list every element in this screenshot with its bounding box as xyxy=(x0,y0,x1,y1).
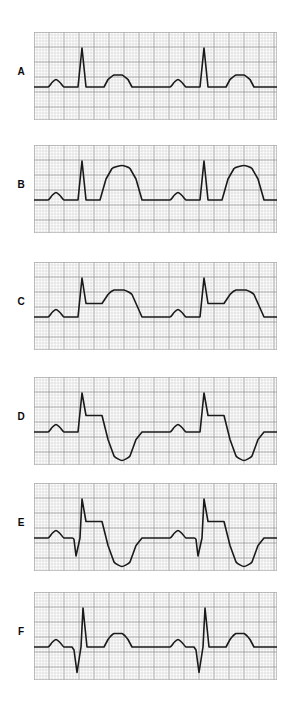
strip-label-d: D xyxy=(10,411,32,422)
ecg-panel-f: Resolved pattern with residual deep Q wa… xyxy=(34,592,277,680)
ecg-panel-c: ST-segment elevation: R spike followed b… xyxy=(34,262,277,350)
ecg-canvas-a: Normal sinus complex: small rounded P wa… xyxy=(34,32,277,120)
ecg-panel-a: Normal sinus complex: small rounded P wa… xyxy=(34,32,277,120)
ecg-grid xyxy=(34,32,277,120)
ecg-trace-a xyxy=(34,48,277,87)
ecg-panel-b: Hyperacute T waves: P wave normal, tall … xyxy=(34,145,277,233)
ecg-strip-a: ANormal sinus complex: small rounded P w… xyxy=(0,32,292,120)
ecg-grid xyxy=(34,377,277,465)
ecg-canvas-c: ST-segment elevation: R spike followed b… xyxy=(34,262,277,350)
ecg-figure: ANormal sinus complex: small rounded P w… xyxy=(0,0,292,711)
ecg-strip-e: EPathological Q wave with ST elevation a… xyxy=(0,483,292,571)
ecg-trace-e xyxy=(34,499,277,567)
ecg-trace-d xyxy=(34,393,277,461)
ecg-panel-d: ST elevation with T-wave inversion: elev… xyxy=(34,377,277,465)
ecg-canvas-b: Hyperacute T waves: P wave normal, tall … xyxy=(34,145,277,233)
ecg-grid xyxy=(34,262,277,350)
ecg-canvas-f: Resolved pattern with residual deep Q wa… xyxy=(34,592,277,680)
ecg-strip-b: BHyperacute T waves: P wave normal, tall… xyxy=(0,145,292,233)
ecg-strip-d: DST elevation with T-wave inversion: ele… xyxy=(0,377,292,465)
strip-label-b: B xyxy=(10,179,32,190)
ecg-grid xyxy=(34,483,277,571)
strip-label-f: F xyxy=(10,626,32,637)
strip-label-a: A xyxy=(10,66,32,77)
ecg-strip-f: FResolved pattern with residual deep Q w… xyxy=(0,592,292,680)
ecg-trace-c xyxy=(34,278,277,317)
strip-label-e: E xyxy=(10,517,32,528)
ecg-trace-b xyxy=(34,161,277,200)
strip-label-c: C xyxy=(10,296,32,307)
ecg-grid xyxy=(34,145,277,233)
ecg-panel-e: Pathological Q wave with ST elevation an… xyxy=(34,483,277,571)
ecg-canvas-e: Pathological Q wave with ST elevation an… xyxy=(34,483,277,571)
ecg-grid xyxy=(34,592,277,680)
ecg-canvas-d: ST elevation with T-wave inversion: elev… xyxy=(34,377,277,465)
ecg-strip-c: CST-segment elevation: R spike followed … xyxy=(0,262,292,350)
